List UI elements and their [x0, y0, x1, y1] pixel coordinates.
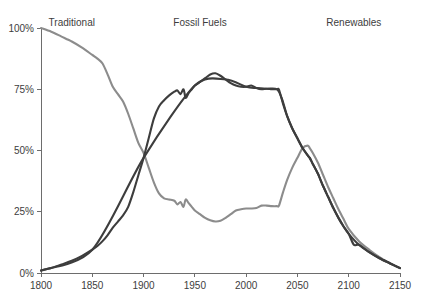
x-tick-1900: 1900: [132, 273, 155, 291]
series-line-fossil-fuels: [41, 73, 400, 270]
traditional-label: Traditional: [49, 17, 95, 28]
series-labels: TraditionalFossil FuelsRenewables: [49, 17, 382, 28]
x-axis-ticks: 18001850190019502000205021002150: [30, 273, 412, 291]
x-tick-label: 2050: [286, 280, 309, 291]
y-tick-label: 100%: [8, 23, 34, 34]
y-tick-75pct: 75%: [14, 84, 41, 95]
renewables-label: Renewables: [326, 17, 381, 28]
y-tick-label: 0%: [20, 268, 35, 279]
series-line-renewables: [41, 78, 400, 270]
chart-canvas: 0%25%50%75%100% 180018501900195020002050…: [0, 0, 428, 307]
y-axis-ticks: 0%25%50%75%100%: [8, 23, 41, 279]
x-tick-label: 1950: [184, 280, 207, 291]
x-tick-label: 2100: [338, 280, 361, 291]
x-tick-2100: 2100: [338, 273, 361, 291]
y-tick-0pct: 0%: [20, 268, 41, 279]
y-tick-100pct: 100%: [8, 23, 41, 34]
y-tick-label: 75%: [14, 84, 34, 95]
y-tick-label: 25%: [14, 206, 34, 217]
series-lines: [41, 28, 400, 271]
x-tick-label: 1850: [81, 280, 104, 291]
energy-transition-chart: 0%25%50%75%100% 180018501900195020002050…: [0, 0, 428, 307]
y-tick-25pct: 25%: [14, 206, 41, 217]
x-tick-label: 1800: [30, 280, 53, 291]
y-tick-label: 50%: [14, 145, 34, 156]
x-tick-1850: 1850: [81, 273, 104, 291]
fossil-fuels-label: Fossil Fuels: [173, 17, 226, 28]
axes-group: [41, 28, 400, 273]
x-tick-label: 1900: [132, 280, 155, 291]
x-tick-2150: 2150: [389, 273, 412, 291]
x-tick-2000: 2000: [235, 273, 258, 291]
y-tick-50pct: 50%: [14, 145, 41, 156]
x-tick-label: 2150: [389, 280, 412, 291]
x-tick-label: 2000: [235, 280, 258, 291]
x-tick-2050: 2050: [286, 273, 309, 291]
x-tick-1950: 1950: [184, 273, 207, 291]
